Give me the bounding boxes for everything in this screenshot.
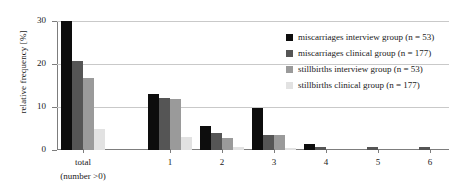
- y-axis-tick-labels: 0102030: [0, 0, 52, 129]
- legend-label: miscarriages clinical group (n = 177): [298, 48, 431, 58]
- bar: [83, 78, 94, 150]
- x-tick: [83, 149, 84, 153]
- x-tick: [430, 149, 431, 153]
- bar: [211, 133, 222, 150]
- bar: [304, 144, 315, 150]
- legend-label: stillbirths clinical group (n = 177): [298, 80, 420, 90]
- x-tick: [222, 149, 223, 153]
- y-tick: [52, 21, 57, 22]
- legend-label: stillbirths interview group (n = 53): [298, 64, 423, 74]
- y-tick: [52, 150, 57, 151]
- bar: [419, 147, 430, 150]
- x-tick: [378, 149, 379, 153]
- bar: [367, 147, 378, 150]
- bar: [148, 94, 159, 150]
- x-tick: [274, 149, 275, 153]
- x-tick: [326, 149, 327, 153]
- legend-label: miscarriages interview group (n = 53): [298, 32, 434, 42]
- bar: [285, 148, 296, 150]
- bar: [61, 21, 72, 150]
- x-tick: [170, 149, 171, 153]
- legend-item: stillbirths interview group (n = 53): [286, 61, 434, 77]
- bar: [181, 137, 192, 150]
- x-tick-label: 6: [390, 157, 458, 167]
- x-tick-sublabel: (number >0): [43, 171, 123, 181]
- bar: [94, 129, 105, 150]
- y-tick-label: 20: [0, 58, 46, 68]
- y-tick-label: 30: [0, 15, 46, 25]
- legend-item: miscarriages clinical group (n = 177): [286, 45, 434, 61]
- bar: [263, 135, 274, 150]
- legend-swatch-icon: [286, 82, 293, 89]
- y-tick: [52, 64, 57, 65]
- chart-legend: miscarriages interview group (n = 53)mis…: [286, 29, 434, 93]
- legend-swatch-icon: [286, 50, 293, 57]
- legend-swatch-icon: [286, 66, 293, 73]
- bar: [252, 108, 263, 150]
- bar: [200, 126, 211, 150]
- bar: [233, 147, 244, 150]
- gridline-30: [57, 21, 449, 22]
- bar: [222, 138, 233, 150]
- bar: [170, 99, 181, 150]
- legend-item: stillbirths clinical group (n = 177): [286, 77, 434, 93]
- y-tick-label: 10: [0, 101, 46, 111]
- x-tick-label: total: [43, 157, 123, 167]
- bar: [315, 147, 326, 150]
- legend-swatch-icon: [286, 34, 293, 41]
- legend-item: miscarriages interview group (n = 53): [286, 29, 434, 45]
- y-tick-label: 0: [0, 144, 46, 154]
- bar: [274, 135, 285, 150]
- bar-chart: relative frequency [%] 0102030 total(num…: [0, 0, 458, 193]
- bar: [72, 61, 83, 150]
- bar: [159, 98, 170, 150]
- y-tick: [52, 107, 57, 108]
